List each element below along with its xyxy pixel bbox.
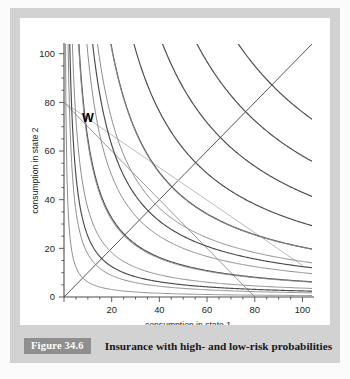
- certainty-line-45deg: [64, 44, 312, 297]
- figure-caption-text: Insurance with high- and low-risk probab…: [105, 340, 332, 352]
- indifference-curve-light-1: [65, 18, 312, 296]
- y-tick-label: 20: [45, 243, 55, 254]
- y-tick-label: 40: [45, 194, 55, 205]
- y-tick-label: 0: [50, 291, 55, 302]
- indifference-curves-layer: [64, 18, 312, 297]
- figure-root: 20406080100020406080100consumption in st…: [0, 0, 350, 379]
- y-axis-title: consumption in state 2: [30, 127, 40, 213]
- endowment-point-W: W: [82, 111, 94, 125]
- indifference-curve-light-3: [69, 18, 312, 288]
- indifference-curve-dark-6: [116, 18, 312, 196]
- indifference-curve-dark-8: [157, 18, 312, 119]
- indifference-curve-light-4: [73, 18, 312, 282]
- figure-caption: Figure 34.6 Insurance with high- and low…: [24, 336, 326, 356]
- chart-canvas: 20406080100020406080100consumption in st…: [20, 18, 330, 325]
- x-tick-label: 40: [154, 304, 164, 315]
- indifference-curve-dark-2: [73, 18, 312, 282]
- x-tick-label: 80: [250, 304, 260, 315]
- x-axis-title: consumption in state 1: [145, 320, 231, 325]
- figure-number-badge: Figure 34.6: [24, 338, 91, 355]
- x-tick-label: 100: [295, 304, 311, 315]
- x-tick-label: 20: [106, 304, 116, 315]
- y-tick-label: 100: [39, 48, 55, 59]
- indifference-curve-dark-3: [79, 18, 312, 268]
- y-tick-label: 60: [45, 145, 55, 156]
- low-risk-budget-line: [64, 102, 302, 265]
- y-tick-label: 80: [45, 97, 55, 108]
- x-tick-label: 60: [202, 304, 212, 315]
